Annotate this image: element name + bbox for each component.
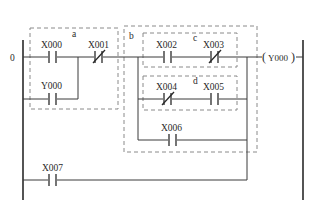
contact-x001: X001 [88,40,109,63]
group-label-c: c [193,33,197,43]
group-label-d: d [193,76,198,86]
group-box-c [143,33,237,67]
group-label-b: b [129,31,134,41]
coil-label-y000: Y000 [268,53,288,63]
contact-x000: X000 [41,40,62,63]
contact-y000: Y000 [41,81,62,105]
contact-x002: X002 [156,40,177,63]
contact-x003: X003 [203,40,224,63]
contact-x005: X005 [203,82,224,105]
contact-x007: X007 [42,163,63,186]
contact-label-y000: Y000 [41,81,62,91]
contact-label-x004: X004 [156,82,177,92]
rung-number: 0 [10,53,15,63]
contact-x004: X004 [156,82,177,105]
contact-label-x003: X003 [203,40,224,50]
contact-label-x007: X007 [42,163,63,173]
contact-label-x002: X002 [156,40,177,50]
contact-label-x001: X001 [88,40,109,50]
group-label-a: a [72,29,77,39]
contact-x006: X006 [161,123,182,146]
contact-label-x006: X006 [161,123,182,133]
coil-y000: ( Y000 ) [262,50,295,64]
contact-label-x000: X000 [41,40,62,50]
coil-open-paren: ( [262,50,266,64]
ladder-diagram: 0 a b c d X000 X001 [0,0,317,212]
contact-label-x005: X005 [203,82,224,92]
coil-close-paren: ) [291,50,295,64]
